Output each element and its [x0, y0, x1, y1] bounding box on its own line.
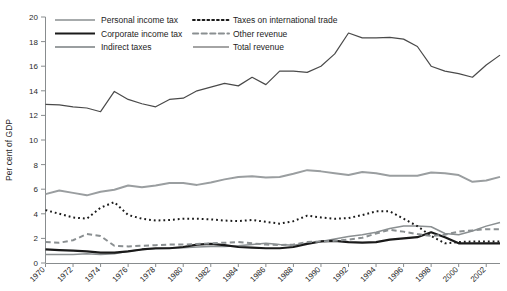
x-tick-label: 1992 [331, 265, 350, 284]
y-axis-ticks: 02468101214161820 [29, 13, 45, 268]
legend-label-2: Indirect taxes [101, 42, 152, 52]
x-tick-label: 1980 [166, 265, 185, 284]
series-line-1 [46, 232, 501, 252]
chart-container: Per cent of GDP 02468101214161820 197019… [0, 0, 507, 291]
x-tick-label: 2000 [441, 265, 460, 284]
x-tick-label: 1984 [221, 265, 240, 284]
x-tick-label: 1978 [138, 265, 157, 284]
legend-label-5: Total revenue [233, 42, 284, 52]
series-group [46, 33, 501, 254]
x-tick-label: 1972 [56, 265, 75, 284]
x-tick-label: 1974 [83, 265, 102, 284]
x-tick-label: 1976 [111, 265, 130, 284]
y-tick-label: 12 [29, 111, 38, 120]
legend-label-4: Other revenue [233, 29, 288, 39]
y-tick-label: 2 [34, 234, 39, 243]
y-axis-label: Per cent of GDP [4, 119, 14, 181]
series-line-3 [46, 202, 501, 243]
y-tick-label: 10 [29, 136, 38, 145]
x-tick-label: 1994 [359, 265, 378, 284]
x-tick-label: 1982 [193, 265, 212, 284]
x-tick-label: 1986 [248, 265, 267, 284]
x-tick-label: 1970 [28, 265, 47, 284]
series-line-2 [46, 170, 501, 195]
series-line-0 [46, 222, 501, 254]
x-tick-label: 2002 [469, 265, 488, 284]
x-tick-label: 1988 [276, 265, 295, 284]
x-tick-label: 1998 [414, 265, 433, 284]
x-tick-label: 1990 [303, 265, 322, 284]
y-tick-label: 4 [34, 210, 39, 219]
legend-label-3: Taxes on international trade [233, 15, 338, 25]
y-tick-label: 14 [29, 87, 38, 96]
y-tick-label: 20 [29, 13, 38, 22]
y-tick-label: 16 [29, 62, 38, 71]
y-tick-label: 8 [34, 161, 39, 170]
chart-legend: Personal income taxCorporate income taxI… [55, 15, 338, 52]
x-tick-label: 1996 [386, 265, 405, 284]
legend-label-0: Personal income tax [101, 15, 179, 25]
legend-label-1: Corporate income tax [101, 29, 183, 39]
y-tick-label: 18 [29, 38, 38, 47]
revenue-line-chart: Per cent of GDP 02468101214161820 197019… [0, 0, 507, 291]
y-tick-label: 6 [34, 185, 39, 194]
x-axis-ticks: 1970197219741976197819801982198419861988… [28, 264, 488, 284]
